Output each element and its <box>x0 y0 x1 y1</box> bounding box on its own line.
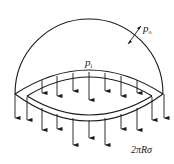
shell-inner-top <box>27 77 152 96</box>
wall-force-label: 2πRσ <box>131 145 152 155</box>
external-pressure-label: po <box>143 23 152 35</box>
internal-pressure-arrows <box>42 72 137 100</box>
internal-pressure-label: pi <box>85 57 92 69</box>
